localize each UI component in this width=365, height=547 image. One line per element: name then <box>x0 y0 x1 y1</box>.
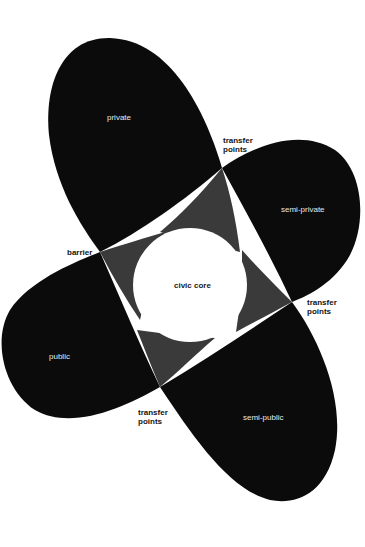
label-private: private <box>107 113 131 122</box>
label-barrier: barrier <box>67 248 92 257</box>
label-public: public <box>49 352 70 361</box>
label-transfer-points-bottom: transfer points <box>138 408 168 426</box>
label-semi-private: semi-private <box>281 205 325 214</box>
label-transfer-points-right: transfer points <box>307 298 337 316</box>
civic-core-diagram: private semi-private public semi-public … <box>0 0 365 547</box>
label-transfer-points-top: transfer points <box>223 136 253 154</box>
label-semi-public: semi-public <box>243 413 283 422</box>
diagram-canvas <box>0 0 365 547</box>
label-civic-core: civic core <box>174 281 211 290</box>
